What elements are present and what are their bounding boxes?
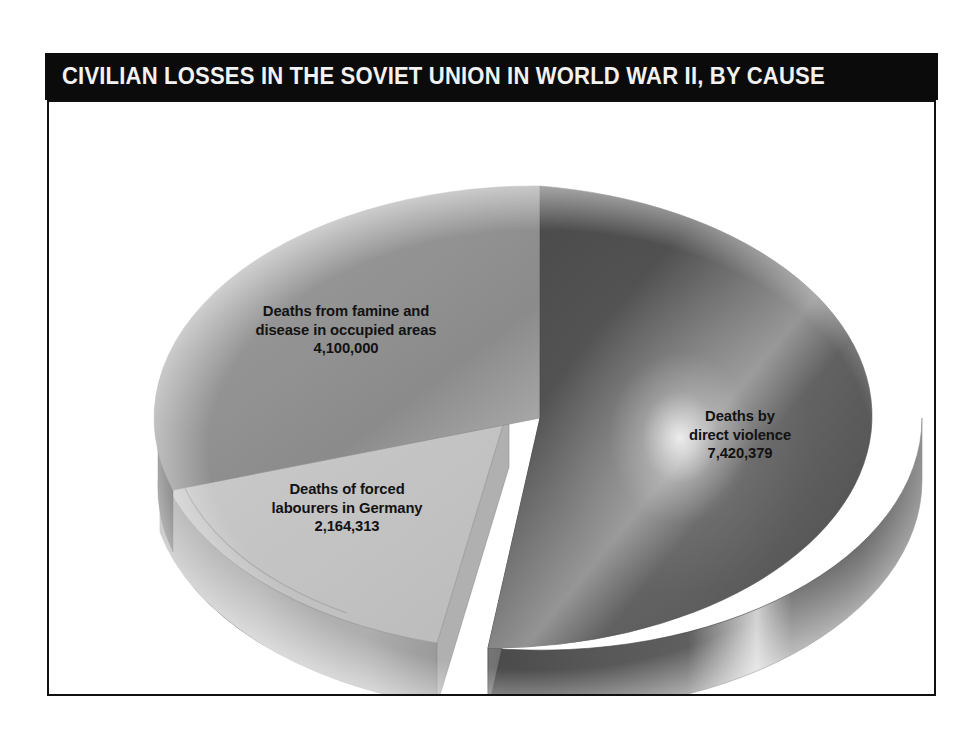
chart-title: CIVILIAN LOSSES IN THE SOVIET UNION IN W… xyxy=(62,62,825,90)
slice-label-famine-disease: Deaths from famine and disease in occupi… xyxy=(196,302,496,358)
slice-label-value: 4,100,000 xyxy=(196,339,496,358)
chart-plot-frame: Deaths from famine and disease in occupi… xyxy=(47,100,936,696)
slice-label-line2: direct violence xyxy=(615,426,865,445)
slice-label-value: 2,164,313 xyxy=(197,517,497,536)
pie-chart-graphic xyxy=(47,100,936,696)
slice-label-line1: Deaths by xyxy=(615,407,865,426)
slice-label-line1: Deaths of forced xyxy=(197,480,497,499)
pie-chart: Deaths from famine and disease in occupi… xyxy=(49,102,936,696)
slice-label-direct-violence: Deaths by direct violence 7,420,379 xyxy=(615,407,865,463)
slice-label-line2: disease in occupied areas xyxy=(196,321,496,340)
slice-label-forced-labourers: Deaths of forced labourers in Germany 2,… xyxy=(197,480,497,536)
slice-label-value: 7,420,379 xyxy=(615,444,865,463)
slice-label-line1: Deaths from famine and xyxy=(196,302,496,321)
chart-figure: CIVILIAN LOSSES IN THE SOVIET UNION IN W… xyxy=(45,53,938,698)
chart-title-bar: CIVILIAN LOSSES IN THE SOVIET UNION IN W… xyxy=(45,53,938,100)
slice-label-line2: labourers in Germany xyxy=(197,499,497,518)
